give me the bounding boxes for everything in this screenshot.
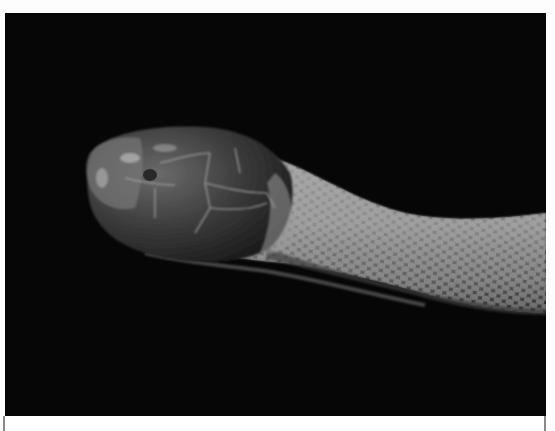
snake-photo bbox=[5, 13, 546, 416]
snake-illustration bbox=[5, 13, 546, 416]
figure-frame bbox=[0, 0, 555, 431]
snake-eye bbox=[143, 169, 157, 181]
caption-text bbox=[5, 422, 11, 431]
caption-box bbox=[3, 416, 546, 431]
